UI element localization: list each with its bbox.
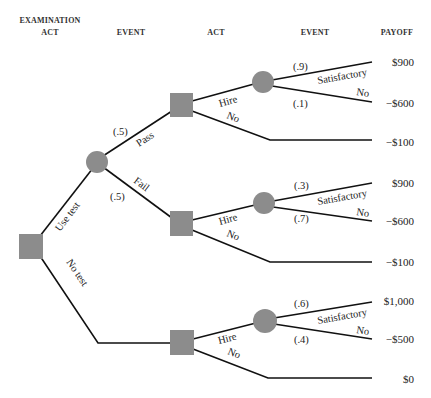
- label-pass-no: No: [225, 110, 241, 125]
- fail-chance-node: [253, 192, 275, 214]
- payoffs: $900 −$600 −$100 $900 −$600 −$100 $1,000…: [384, 56, 415, 385]
- prob-fail-satisfactory: (.3): [294, 180, 309, 192]
- payoff-notest-satisfactory: $1,000: [384, 295, 415, 307]
- label-fail-no: No: [225, 228, 241, 243]
- payoff-notest-unsatisfactory: −$500: [386, 333, 415, 345]
- label-fail-unsatisfactory: No: [356, 206, 370, 219]
- edge-fail-no: [192, 230, 372, 262]
- label-pass-satisfactory: Satisfactory: [316, 66, 368, 86]
- payoff-fail-no-hire: −$100: [386, 256, 415, 268]
- edge-pass-no: [192, 111, 372, 140]
- prob-fail-unsatisfactory: (.7): [294, 213, 309, 225]
- label-pass-unsatisfactory: No: [356, 86, 370, 99]
- test-chance-node: [86, 151, 108, 173]
- pass-decision-node: [170, 93, 193, 117]
- label-no-test: No test: [64, 257, 90, 288]
- label-pass-hire: Hire: [218, 93, 239, 109]
- notest-decision-node: [170, 330, 194, 355]
- label-fail-satisfactory: Satisfactory: [316, 187, 368, 207]
- prob-notest-unsatisfactory: (.4): [294, 334, 309, 346]
- prob-notest-satisfactory: (.6): [294, 298, 309, 310]
- edges: [40, 62, 372, 378]
- edge-notest-no: [193, 349, 372, 378]
- prob-fail: (.5): [110, 191, 125, 203]
- header-event-2: EVENT: [301, 28, 330, 37]
- prob-pass-unsatisfactory: (.1): [293, 98, 308, 110]
- payoff-fail-satisfactory: $900: [392, 177, 415, 189]
- edge-no-test: [40, 256, 172, 343]
- notest-chance-node: [253, 309, 277, 333]
- decision-tree: EXAMINATION ACT EVENT ACT EVENT PAYOFF: [0, 0, 431, 398]
- payoff-fail-unsatisfactory: −$600: [386, 215, 415, 227]
- header-payoff: PAYOFF: [381, 28, 413, 37]
- payoff-notest-no-hire: $0: [403, 373, 415, 385]
- column-headers: EXAMINATION ACT EVENT ACT EVENT PAYOFF: [19, 16, 413, 37]
- label-pass: Pass: [134, 129, 156, 148]
- payoff-pass-unsatisfactory: −$600: [386, 97, 415, 109]
- pass-chance-node: [252, 71, 274, 93]
- fail-decision-node: [170, 211, 193, 236]
- prob-pass-satisfactory: (.9): [293, 61, 308, 73]
- label-notest-no: No: [226, 346, 242, 361]
- label-notest-unsatisfactory: No: [356, 324, 370, 337]
- branch-labels: Use test No test (.5) Pass Fail (.5) Hir…: [53, 61, 370, 361]
- prob-pass: (.5): [113, 126, 128, 138]
- header-examination-act: ACT: [41, 28, 59, 37]
- root-decision-node: [19, 234, 43, 259]
- header-event-1: EVENT: [117, 28, 146, 37]
- header-act: ACT: [207, 28, 225, 37]
- payoff-pass-satisfactory: $900: [392, 56, 415, 68]
- payoff-pass-no-hire: −$100: [386, 136, 415, 148]
- header-examination: EXAMINATION: [19, 16, 80, 25]
- label-use-test: Use test: [53, 200, 82, 233]
